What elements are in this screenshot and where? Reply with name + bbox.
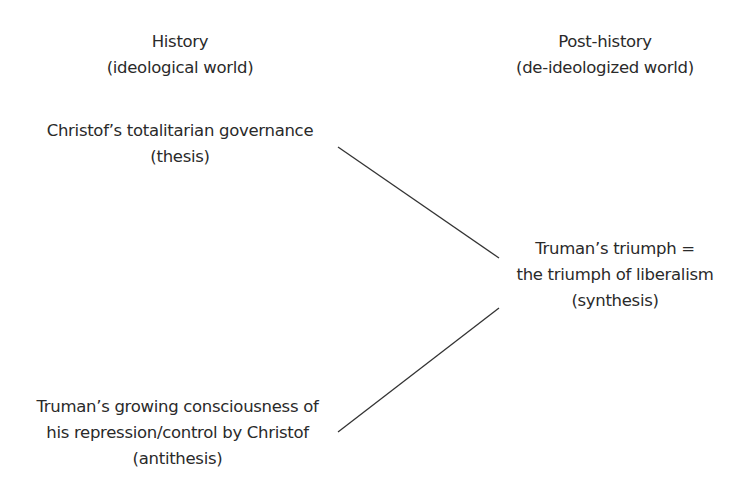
connector-lines	[0, 0, 741, 501]
connector-antithesis-to-synthesis	[338, 308, 499, 432]
connector-thesis-to-synthesis	[338, 147, 499, 258]
